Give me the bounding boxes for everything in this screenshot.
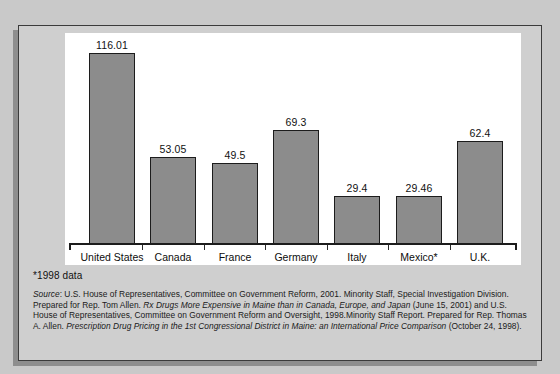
figure-page: 116.01United States53.05Canada49.5France… xyxy=(0,0,560,374)
figure-card: 116.01United States53.05Canada49.5France… xyxy=(18,25,542,361)
x-axis-tick xyxy=(265,245,266,250)
bar-rect[interactable] xyxy=(396,196,442,245)
source-title-1: Rx Drugs More Expensive in Maine than in… xyxy=(143,300,410,310)
bar-rect[interactable] xyxy=(273,130,319,244)
bar-value-label: 29.46 xyxy=(378,182,460,194)
bar-series: 116.01United States53.05Canada49.5France… xyxy=(65,33,521,265)
bar-group-u-k: 62.4U.K. xyxy=(457,141,503,244)
bar-group-germany: 69.3Germany xyxy=(273,130,319,244)
x-axis-tick xyxy=(204,245,205,250)
bar-value-label: 62.4 xyxy=(439,127,521,139)
bar-group-united-states: 116.01United States xyxy=(89,53,135,244)
source-citation: Source: U.S. House of Representatives, C… xyxy=(33,289,529,331)
bar-rect[interactable] xyxy=(150,157,196,244)
x-axis-right-cap xyxy=(515,244,517,250)
chart-plot-area: 116.01United States53.05Canada49.5France… xyxy=(65,33,521,265)
x-axis-tick xyxy=(388,245,389,250)
bar-group-france: 49.5France xyxy=(212,163,258,244)
x-axis-tick xyxy=(327,245,328,250)
source-title-2: Prescription Drug Pricing in the 1st Con… xyxy=(66,321,446,331)
bar-group-italy: 29.4Italy xyxy=(334,196,380,244)
bar-rect[interactable] xyxy=(212,163,258,244)
bar-group-canada: 53.05Canada xyxy=(150,157,196,244)
x-axis-tick xyxy=(142,245,143,250)
bar-rect[interactable] xyxy=(89,53,135,244)
bar-rect[interactable] xyxy=(457,141,503,244)
bar-group-mexico: 29.46Mexico* xyxy=(396,196,442,245)
x-axis-left-cap xyxy=(69,244,71,250)
bar-value-label: 116.01 xyxy=(71,39,153,51)
x-axis-tick xyxy=(450,245,451,250)
bar-category-label: U.K. xyxy=(431,251,529,263)
bar-rect[interactable] xyxy=(334,196,380,244)
bar-value-label: 49.5 xyxy=(194,149,276,161)
footnote-1998-data: *1998 data xyxy=(33,270,529,281)
source-label: Source xyxy=(33,289,60,299)
bar-value-label: 69.3 xyxy=(255,116,337,128)
source-text-part-3: (October 24, 1998). xyxy=(446,321,521,331)
chart-notes: *1998 data Source: U.S. House of Represe… xyxy=(33,270,529,331)
